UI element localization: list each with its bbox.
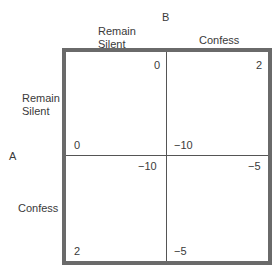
matrix-vertical-divider xyxy=(166,52,167,261)
cell-confess-confess-b-payoff: −5 xyxy=(248,160,261,172)
player-b-label: B xyxy=(162,11,169,24)
player-a-label: A xyxy=(9,150,16,163)
row-header-remain-silent-line1: Remain xyxy=(22,92,60,105)
row-header-remain-silent: Remain Silent xyxy=(22,92,60,118)
cell-confess-silent-a-payoff: 2 xyxy=(74,245,80,257)
cell-silent-confess-a-payoff: −10 xyxy=(174,139,193,151)
column-header-confess: Confess xyxy=(199,34,239,47)
payoff-matrix: 0 0 2 −10 −10 2 −5 −5 xyxy=(62,48,272,265)
column-header-remain-silent-line1: Remain xyxy=(98,25,136,38)
cell-silent-confess-b-payoff: 2 xyxy=(256,59,262,71)
row-header-remain-silent-line2: Silent xyxy=(22,105,60,118)
cell-silent-silent-b-payoff: 0 xyxy=(154,59,160,71)
row-header-confess: Confess xyxy=(18,202,58,215)
cell-confess-confess-a-payoff: −5 xyxy=(174,245,187,257)
matrix-horizontal-divider xyxy=(66,155,268,156)
cell-confess-silent-b-payoff: −10 xyxy=(138,160,157,172)
cell-silent-silent-a-payoff: 0 xyxy=(74,139,80,151)
